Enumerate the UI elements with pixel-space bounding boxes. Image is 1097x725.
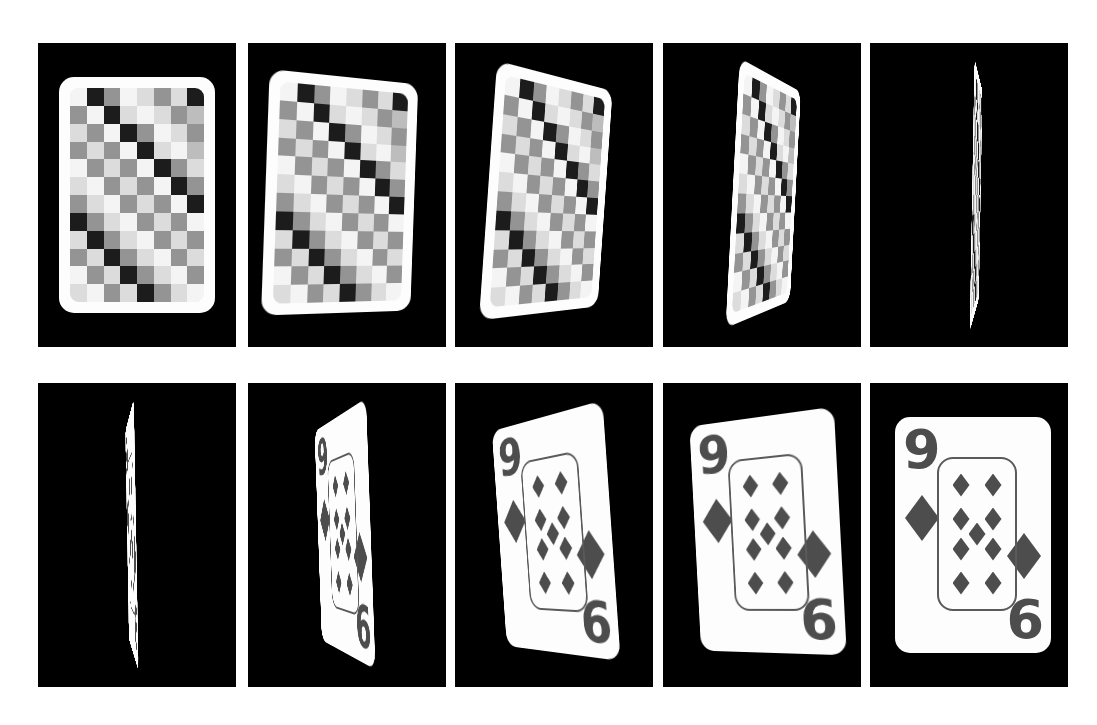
diamond-icon [546, 522, 560, 546]
card-back-cell [542, 140, 556, 160]
card-back-cell [789, 130, 795, 148]
card-back-cell [505, 75, 521, 97]
card-back-cell [341, 248, 357, 266]
card-back-cell [345, 106, 361, 125]
diamond-icon [985, 572, 1002, 595]
card-back-cell [328, 158, 345, 177]
card-back-cell [373, 231, 389, 249]
card-back-cell [104, 266, 121, 284]
card-back-cell [581, 264, 593, 281]
card-back-cell [973, 134, 974, 156]
card-back-cell [975, 195, 976, 214]
card-back-cell [504, 286, 519, 306]
card-back-cell [137, 142, 154, 160]
card-back-cell [973, 175, 975, 195]
diamond-icon [985, 474, 1002, 497]
card-stage [455, 43, 653, 347]
card-stage [870, 43, 1068, 347]
card-back [59, 77, 215, 313]
card-back-cell [759, 213, 767, 231]
card-back-cell [171, 88, 188, 106]
card-back-cell [373, 214, 389, 232]
card-stage: 96 [248, 383, 446, 687]
card-back-cell [87, 284, 104, 302]
card-back-cell [788, 147, 794, 165]
card-back-cell [87, 213, 104, 231]
card-back-cell [171, 106, 188, 124]
card-face-panel: 96 [689, 407, 833, 427]
card-back-cell [345, 124, 361, 143]
card-back-cell [759, 81, 767, 103]
diamond-icon [985, 508, 1002, 531]
card-back-cell [591, 130, 603, 148]
card-back-cell [973, 287, 974, 309]
card-back-cell [154, 177, 171, 195]
rank-bottom-right: 6 [134, 597, 138, 663]
card-back-cell [171, 159, 188, 177]
card-back-cell [388, 214, 404, 232]
card-back-cell [309, 212, 326, 230]
card-back-cell [327, 176, 344, 195]
diamond-icon [775, 536, 792, 560]
card-back-cell [278, 137, 296, 156]
diamond-icon [336, 571, 342, 595]
card-back-cell [340, 266, 356, 284]
card-frame-panel [455, 43, 653, 347]
card-back-cell [187, 195, 204, 213]
card-back-cell [372, 249, 388, 266]
card-back-cell [341, 231, 357, 249]
card-face-panel: 96 [492, 400, 603, 431]
card-back-cell [87, 159, 104, 177]
card-back-cell [171, 284, 188, 302]
card-back-cell [120, 249, 137, 267]
card-back-cell [104, 142, 121, 160]
diamond-icon [953, 538, 970, 561]
card-back-cell [339, 284, 355, 302]
card-back-cell [187, 249, 204, 267]
playing-card [970, 58, 983, 332]
card-back-cell [329, 122, 346, 141]
card-back-cell [971, 293, 973, 317]
card-back-cell [526, 175, 541, 194]
card-back-cell [171, 249, 188, 267]
card-back-cell [154, 142, 171, 160]
card-stage: 96 [455, 383, 653, 687]
card-back [970, 58, 983, 332]
card-back-cell [187, 142, 204, 160]
card-back-cell [751, 77, 759, 100]
card-back-cell [501, 133, 517, 154]
card-back-cell [533, 82, 547, 103]
card-back-cell [120, 88, 137, 106]
card-back-cell [974, 114, 975, 136]
card-back-cell [742, 93, 751, 116]
card-back-cell [749, 116, 758, 138]
diamond-icon [131, 506, 132, 530]
card-back-cell [973, 252, 974, 273]
card-back-cell [973, 268, 974, 289]
pip-box [128, 450, 136, 617]
card-back-cell [391, 145, 407, 163]
card-back-cell [980, 130, 981, 148]
card-back-cell [749, 268, 757, 289]
diamond-icon [132, 572, 134, 597]
card-back-cell [543, 121, 557, 141]
card-back-cell [592, 114, 604, 133]
card-back-cell [309, 230, 326, 248]
card-back-cell [746, 174, 755, 194]
card-back-cell [273, 267, 291, 286]
card-back-cell [747, 155, 756, 175]
card-back-cell [312, 121, 329, 140]
card-back-cell [530, 119, 544, 140]
card-back-cell [87, 124, 104, 142]
card-back-cell [355, 284, 371, 302]
card-back-cell [494, 230, 510, 249]
card-back-cell [519, 79, 534, 101]
card-back-cell [762, 158, 770, 177]
card-back-cell [137, 284, 154, 302]
card-back-cell [736, 213, 745, 233]
card-stage: 96 [870, 383, 1068, 687]
card-back-cell [758, 100, 766, 121]
card-back-cell [971, 254, 973, 276]
card-back-cell [502, 114, 518, 136]
diamond-icon [343, 470, 350, 496]
